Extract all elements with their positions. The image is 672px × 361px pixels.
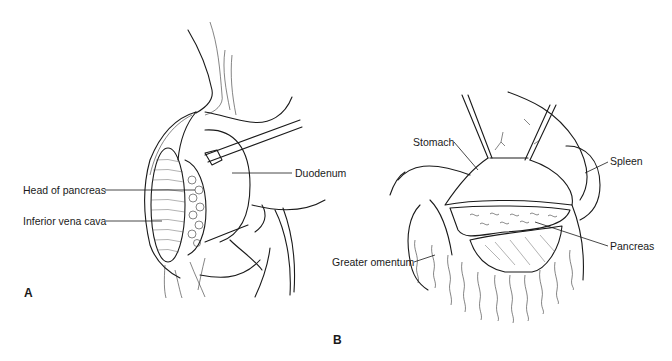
label-head-of-pancreas: Head of pancreas [23,184,106,196]
anatomical-illustration [0,0,672,361]
label-greater-omentum: Greater omentum [332,256,414,268]
panel-letter-b: B [333,333,342,347]
label-spleen: Spleen [610,155,643,167]
panel-letter-a: A [24,286,33,300]
label-duodenum: Duodenum [295,167,346,179]
label-stomach: Stomach [413,136,454,148]
label-pancreas: Pancreas [610,240,654,252]
panel-a-drawing [145,22,325,298]
panel-b-drawing [390,92,600,323]
label-inferior-vena-cava: Inferior vena cava [23,215,106,227]
